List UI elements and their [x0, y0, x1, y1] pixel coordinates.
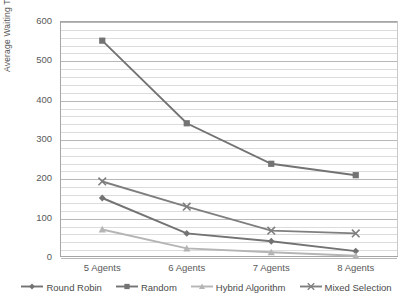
data-point-square	[353, 172, 359, 178]
series-line	[102, 181, 356, 233]
legend-label: Random	[141, 282, 177, 293]
legend-item-hybrid-algorithm[interactable]: Hybrid Algorithm	[191, 281, 286, 294]
series-hybrid-algorithm	[99, 226, 360, 259]
legend-marker-triangle-icon	[191, 281, 213, 294]
series-layer	[0, 0, 413, 303]
data-point-diamond	[268, 238, 275, 245]
legend-label: Hybrid Algorithm	[216, 282, 286, 293]
legend-item-mixed-selection[interactable]: Mixed Selection	[300, 281, 392, 294]
data-point-diamond	[99, 195, 106, 202]
legend-marker-x-icon	[300, 281, 322, 294]
legend-item-round-robin[interactable]: Round Robin	[21, 281, 101, 294]
chart-legend: Round RobinRandomHybrid AlgorithmMixed S…	[0, 281, 413, 294]
legend-label: Mixed Selection	[325, 282, 392, 293]
chart-container: Average Waiting Time 0100200300400500600…	[0, 0, 413, 303]
series-round-robin	[99, 195, 359, 255]
data-point-diamond	[183, 230, 190, 237]
data-point-square	[99, 38, 105, 44]
legend-item-random[interactable]: Random	[116, 281, 177, 294]
legend-label: Round Robin	[46, 282, 101, 293]
series-random	[99, 38, 359, 179]
legend-marker-square-icon	[116, 281, 138, 294]
series-line	[102, 229, 356, 255]
series-mixed-selection	[98, 178, 359, 238]
legend-marker-diamond-icon	[21, 281, 43, 294]
series-line	[102, 198, 356, 251]
series-line	[102, 41, 356, 176]
data-point-square	[268, 161, 274, 167]
data-point-square	[184, 120, 190, 126]
